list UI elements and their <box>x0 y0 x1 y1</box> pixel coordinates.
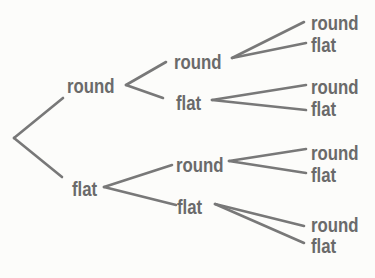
leaf-flat-flat-flat: flat <box>311 235 336 256</box>
node-flat-flat: flat <box>177 196 202 217</box>
branch-round-flat-to-flat <box>212 100 306 110</box>
branch-flat-to-round <box>104 165 172 187</box>
branch-root-to-round <box>14 98 63 138</box>
branch-root-to-flat <box>14 138 62 177</box>
leaf-flat-flat-round: round <box>311 214 359 235</box>
branch-round-round-to-flat <box>232 43 306 58</box>
leaf-round-flat-round: round <box>311 76 359 97</box>
tree-diagram: round flat round flat round flat round f… <box>0 0 375 278</box>
node-round: round <box>67 75 115 96</box>
node-flat: flat <box>72 178 97 199</box>
node-flat-round: round <box>176 154 224 175</box>
branch-round-round-to-round <box>232 22 304 58</box>
branch-flat-round-to-flat <box>229 161 306 173</box>
leaf-round-round-flat: flat <box>311 34 336 55</box>
leaf-flat-round-round: round <box>311 142 359 163</box>
branch-flat-to-flat <box>104 187 176 205</box>
branch-round-to-round <box>126 62 166 85</box>
node-round-flat: flat <box>176 92 201 113</box>
branch-flat-round-to-round <box>229 149 306 161</box>
node-round-round: round <box>174 51 222 72</box>
leaf-round-round-round: round <box>311 12 359 33</box>
branch-round-flat-to-round <box>212 85 306 100</box>
leaf-round-flat-flat: flat <box>311 98 336 119</box>
branch-round-to-flat <box>126 85 163 98</box>
leaf-flat-round-flat: flat <box>311 164 336 185</box>
